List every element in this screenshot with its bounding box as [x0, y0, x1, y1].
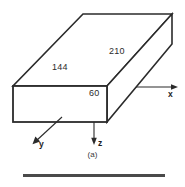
z-axis-label: z [98, 138, 102, 148]
dimension-label-length: 144 [52, 62, 68, 72]
z-axis-arrowhead [91, 138, 97, 145]
y-axis-label: y [39, 139, 44, 149]
x-axis-label: x [168, 89, 173, 99]
horizontal-divider-rule [23, 174, 165, 177]
dimension-label-height: 60 [89, 88, 100, 98]
figure-container: 210 144 60 x y z (a) [0, 0, 185, 187]
dimension-label-depth: 210 [109, 46, 125, 56]
figure-caption: (a) [0, 150, 185, 159]
